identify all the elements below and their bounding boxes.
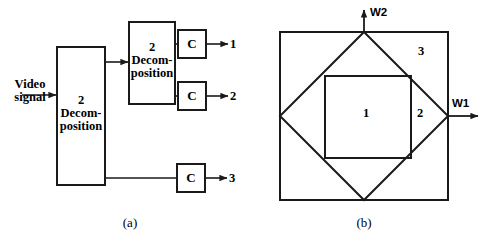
- region-2-label: 2: [413, 106, 427, 121]
- frequency-axis-w1-label: W1: [452, 97, 469, 109]
- panel-b-lines: [250, 0, 493, 247]
- input-label-video-signal: Video signal: [6, 78, 54, 104]
- coder-1-label: C: [178, 36, 206, 52]
- panel-a-lines: [0, 0, 250, 247]
- region-3-label: 3: [414, 44, 428, 59]
- panel-b-frequency-partition: W2 W1 1 2 3 (b): [250, 0, 493, 247]
- decomposition-block-2-rect: [129, 22, 175, 104]
- coder-3-label: C: [177, 170, 205, 186]
- coder-2-label: C: [178, 88, 206, 104]
- output-label-1: 1: [226, 37, 240, 52]
- panel-a-block-diagram: Video signal 2 Decom- position 2 Decom- …: [0, 0, 250, 247]
- caption-panel-a: (a): [100, 215, 160, 231]
- region-1-label: 1: [359, 106, 373, 121]
- caption-panel-b: (b): [334, 215, 394, 231]
- output-label-3: 3: [225, 171, 239, 186]
- figure-root: Video signal 2 Decom- position 2 Decom- …: [0, 0, 493, 247]
- output-label-2: 2: [226, 89, 240, 104]
- frequency-axis-w2-label: W2: [370, 6, 387, 18]
- decomposition-block-1-rect: [57, 47, 105, 185]
